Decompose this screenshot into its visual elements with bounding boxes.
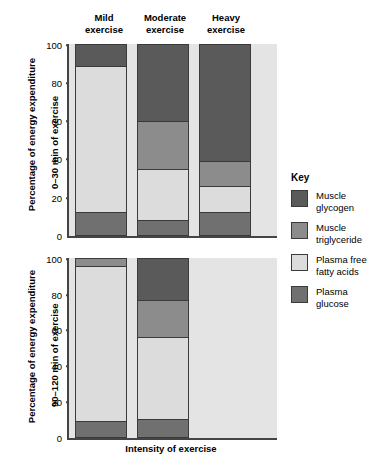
- legend-label-line1: Plasma: [316, 286, 348, 297]
- legend-item-muscle-glycogen[interactable]: Muscle glycogen: [291, 190, 387, 213]
- legend-label-line1: Muscle: [316, 222, 346, 233]
- tick-label: 0: [40, 433, 62, 444]
- tick-label: 40: [40, 361, 62, 372]
- tick-label: 20: [40, 397, 62, 408]
- tick-label: 100: [40, 254, 62, 265]
- tick-label: 80: [40, 78, 62, 89]
- segment-plasma-glucose: [76, 421, 126, 437]
- legend-swatch-muscle-glycogen: [291, 190, 308, 207]
- legend-item-plasma-glucose[interactable]: Plasma glucose: [291, 286, 387, 309]
- legend-label-muscle-glycogen: Muscle glycogen: [316, 190, 354, 213]
- segment-plasma-glucose: [138, 220, 188, 235]
- bar-moderate-bottom[interactable]: [137, 258, 189, 438]
- tick-label: 80: [40, 290, 62, 301]
- segment-plasma-glucose: [138, 419, 188, 437]
- tick-label: 20: [40, 193, 62, 204]
- tick-label: 60: [40, 325, 62, 336]
- segment-muscle-glycogen: [138, 259, 188, 300]
- tick-label: 40: [40, 154, 62, 165]
- segment-muscle-triglyceride: [138, 300, 188, 337]
- legend: Key Muscle glycogen Muscle triglyceride …: [291, 172, 387, 318]
- bar-mild-bottom[interactable]: [75, 258, 127, 438]
- legend-label-line2: fatty acids: [316, 266, 359, 277]
- segment-plasma-free-fatty-acids: [200, 186, 250, 213]
- legend-label-line2: triglyceride: [316, 234, 362, 245]
- tick-label: 100: [40, 40, 62, 51]
- tick-label: 60: [40, 116, 62, 127]
- x-axis-title: Intensity of exercise: [67, 443, 275, 454]
- segment-muscle-glycogen: [76, 45, 126, 66]
- bar-mild-top[interactable]: [75, 44, 127, 236]
- legend-swatch-plasma-glucose: [291, 286, 308, 303]
- legend-label-line1: Muscle: [316, 190, 346, 201]
- panel-0-30-min: Percentage of energy expenditure 0–30 mi…: [0, 0, 290, 245]
- segment-muscle-triglyceride: [76, 259, 126, 266]
- legend-label-muscle-triglyceride: Muscle triglyceride: [316, 222, 362, 245]
- segment-plasma-glucose: [76, 212, 126, 235]
- plot-area-top: [67, 44, 277, 238]
- segment-muscle-triglyceride: [200, 161, 250, 186]
- legend-swatch-muscle-triglyceride: [291, 222, 308, 239]
- segment-plasma-free-fatty-acids: [138, 169, 188, 220]
- legend-title: Key: [291, 172, 387, 183]
- segment-plasma-glucose: [200, 212, 250, 235]
- bar-moderate-top[interactable]: [137, 44, 189, 236]
- segment-muscle-glycogen: [138, 45, 188, 121]
- segment-muscle-triglyceride: [138, 121, 188, 169]
- bar-heavy-top[interactable]: [199, 44, 251, 236]
- segment-plasma-free-fatty-acids: [76, 66, 126, 212]
- tick-label: 0: [40, 231, 62, 242]
- legend-label-plasma-free-fatty-acids: Plasma free fatty acids: [316, 254, 367, 277]
- segment-muscle-glycogen: [200, 45, 250, 161]
- legend-label-line2: glycogen: [316, 202, 354, 213]
- panel-90-120-min: Percentage of energy expenditure 90–120 …: [0, 245, 290, 455]
- plot-area-bottom: [67, 258, 277, 440]
- legend-item-muscle-triglyceride[interactable]: Muscle triglyceride: [291, 222, 387, 245]
- legend-label-line1: Plasma free: [316, 254, 367, 265]
- legend-label-plasma-glucose: Plasma glucose: [316, 286, 349, 309]
- legend-swatch-plasma-free-fatty-acids: [291, 254, 308, 271]
- segment-plasma-free-fatty-acids: [76, 266, 126, 421]
- segment-plasma-free-fatty-acids: [138, 337, 188, 419]
- legend-item-plasma-free-fatty-acids[interactable]: Plasma free fatty acids: [291, 254, 387, 277]
- chart-figure: Mild exercise Moderate exercise Heavy ex…: [0, 0, 389, 472]
- legend-label-line2: glucose: [316, 298, 349, 309]
